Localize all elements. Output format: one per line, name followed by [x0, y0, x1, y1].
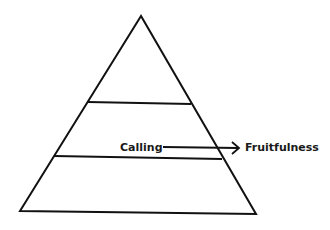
pyramid-graphic: [0, 0, 330, 230]
pyramid-diagram: Calling Fruitfulness: [0, 0, 330, 230]
pyramid-divider-upper: [88, 102, 191, 104]
label-fruitfulness: Fruitfulness: [245, 141, 319, 154]
pyramid-outline: [20, 16, 256, 214]
arrow-shaft: [163, 147, 238, 148]
pyramid-divider-lower: [54, 156, 222, 159]
label-calling: Calling: [120, 141, 163, 154]
